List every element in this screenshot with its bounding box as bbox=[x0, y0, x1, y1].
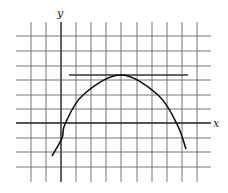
x-axis-label: x bbox=[213, 117, 220, 130]
grid-lines bbox=[16, 22, 211, 182]
y-axis-label: y bbox=[56, 7, 64, 20]
function-graph: x y bbox=[0, 0, 228, 193]
concave-down-curve bbox=[52, 75, 186, 156]
